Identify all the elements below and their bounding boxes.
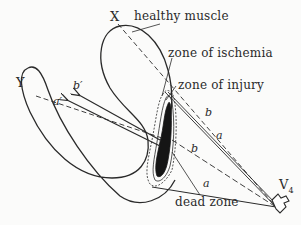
label-v4-subscript: 4	[288, 186, 293, 195]
line-label-b-upper: b	[205, 107, 212, 118]
leader-dead-zone	[172, 152, 200, 195]
label-dead-zone: dead zone	[175, 196, 239, 208]
line-label-b-prime: b′	[73, 80, 83, 91]
point-label-x: X	[110, 10, 119, 23]
label-v4-main: V	[279, 177, 288, 192]
line-label-a-upper: a	[216, 130, 223, 141]
v4-electrode-icon	[272, 194, 289, 213]
label-healthy-muscle: healthy muscle	[134, 10, 229, 22]
line-label-b-middle: b	[191, 143, 198, 154]
line-injury-to-v4-2	[168, 92, 277, 205]
heart-diagram-svg	[0, 0, 301, 225]
ventricle-outer-wall	[120, 25, 172, 130]
label-zone-of-injury: zone of injury	[178, 79, 264, 91]
arrow-b-prime	[79, 95, 160, 140]
diagram-canvas: X Y healthy muscle zone of ischemia zone…	[0, 0, 301, 225]
line-injury-to-v4-1	[165, 92, 276, 207]
label-v4: V4	[279, 178, 293, 195]
line-label-a-lower: a	[203, 178, 210, 189]
point-label-y: Y	[16, 76, 25, 89]
label-zone-of-ischemia: zone of ischemia	[168, 47, 273, 59]
ventricle-outline	[21, 26, 175, 203]
leader-ischemia	[162, 58, 172, 96]
arrow-a-prime	[67, 100, 160, 146]
line-label-a-prime: a′	[53, 96, 62, 107]
